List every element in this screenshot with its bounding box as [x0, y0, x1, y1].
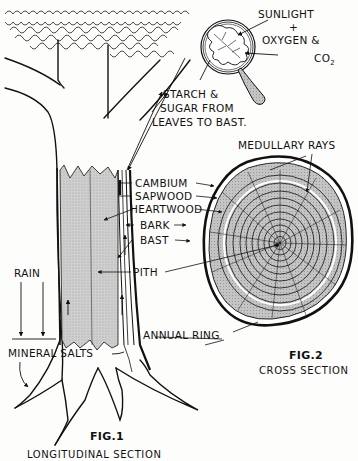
label-medullary-rays: MEDULLARY RAYS [238, 140, 335, 151]
label-bark: BARK [140, 220, 170, 231]
label-co2: CO2 [314, 53, 335, 67]
label-cambium: CAMBIUM [135, 178, 188, 189]
label-starch-line3: LEAVES TO BAST. [152, 117, 247, 128]
label-sunlight: SUNLIGHT [258, 9, 314, 20]
fig1-label: FIG.1 [90, 431, 124, 442]
co2-subscript: 2 [330, 59, 335, 67]
label-pith: PITH [133, 267, 158, 278]
label-starch-line2: SUGAR FROM [160, 103, 234, 114]
label-rain: RAIN [14, 268, 40, 279]
label-bast: BAST [140, 235, 169, 246]
label-mineral-salts: MINERAL SALTS [8, 348, 93, 359]
fig1-caption: LONGITUDINAL SECTION [27, 450, 161, 460]
fig2-label: FIG.2 [289, 350, 323, 361]
label-starch-line1: STARCH & [163, 89, 218, 100]
label-heartwood: HEARTWOOD [130, 204, 202, 215]
tree-anatomy-diagram: SUNLIGHT + OXYGEN & CO2 STARCH & SUGAR F… [0, 0, 358, 461]
label-oxygen: OXYGEN & [262, 35, 320, 46]
cross-section-log [204, 157, 353, 326]
diagram-drawing [0, 0, 358, 461]
foliage-canopy [5, 11, 189, 57]
label-annual-ring: ANNUAL RING [143, 330, 220, 341]
fig2-caption: CROSS SECTION [259, 366, 349, 376]
label-sapwood: SAPWOOD [135, 191, 192, 202]
label-plus: + [289, 22, 298, 33]
co2-text: CO [314, 52, 330, 64]
